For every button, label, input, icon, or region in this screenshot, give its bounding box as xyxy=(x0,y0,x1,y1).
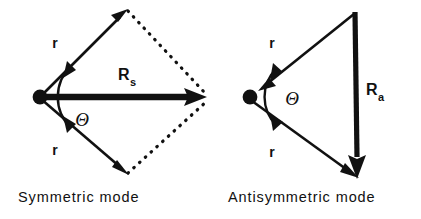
antisymmetric-resultant-vector xyxy=(348,12,366,179)
symmetric-resultant-vector xyxy=(40,88,207,106)
resultant-shaft xyxy=(355,12,357,157)
symmetric-label-resultant-main: R xyxy=(118,66,130,83)
resultant-arrowhead xyxy=(348,155,366,179)
figure-container: r r R s Θ xyxy=(0,0,421,219)
panel-symmetric: r r R s Θ xyxy=(33,9,207,175)
closure-line-upper xyxy=(128,11,206,94)
antisymmetric-label-r-upper: r xyxy=(269,35,275,51)
panel-antisymmetric: r r R a Θ xyxy=(243,12,385,179)
angle-arc-arrowhead-lower xyxy=(270,114,283,131)
arm-upper-shaft xyxy=(41,17,120,96)
antisymmetric-arm-upper xyxy=(258,14,354,91)
symmetric-label-r-upper: r xyxy=(52,35,58,51)
antisymmetric-label-resultant-sub: a xyxy=(378,91,385,103)
symmetric-label-resultant-sub: s xyxy=(130,76,136,88)
antisymmetric-label-theta: Θ xyxy=(285,88,299,109)
symmetric-vertex-dot xyxy=(33,90,48,105)
caption-antisymmetric-mode: Antisymmetric mode xyxy=(228,189,376,205)
symmetric-arm-upper xyxy=(41,9,128,96)
arm-upper-arrowhead xyxy=(111,9,128,22)
caption-symmetric-mode: Symmetric mode xyxy=(18,189,139,205)
symmetric-label-r-lower: r xyxy=(52,142,58,158)
antisymmetric-label-resultant-main: R xyxy=(366,81,378,98)
symmetric-closure-lines xyxy=(128,11,207,173)
antisymmetric-vertex-dot xyxy=(243,90,258,105)
vector-diagram-svg: r r R s Θ xyxy=(0,0,421,219)
antisymmetric-label-r-lower: r xyxy=(269,144,275,160)
antisymmetric-angle-marker xyxy=(265,63,283,131)
angle-arc-arrowhead-lower xyxy=(63,116,76,133)
symmetric-label-theta: Θ xyxy=(75,109,89,130)
closure-line-lower xyxy=(128,101,207,173)
